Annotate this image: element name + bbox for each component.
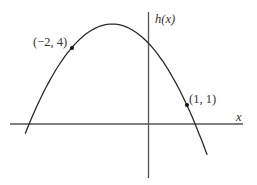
parabola-graph: (−2, 4) (1, 1) h(x) x <box>0 0 257 185</box>
y-axis-label: h(x) <box>155 12 175 26</box>
point-minus2-4 <box>70 46 74 50</box>
x-axis-label: x <box>235 110 242 124</box>
point-label-a: (−2, 4) <box>33 35 67 49</box>
point-label-b: (1, 1) <box>189 92 216 106</box>
